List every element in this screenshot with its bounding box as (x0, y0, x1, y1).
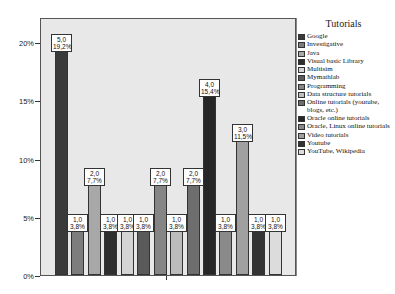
data-label: 1,03,8% (67, 214, 88, 232)
bar-online-tutorials-youtube-blogs-etc- (187, 185, 200, 275)
legend-swatch (298, 51, 305, 57)
legend-item: Java (298, 50, 395, 58)
bar-oracle-linux-online-tutorials (219, 231, 232, 275)
bar-youtube-wikipedia (269, 231, 282, 275)
data-label: 5,019,2% (51, 34, 72, 52)
legend-swatch (298, 67, 305, 73)
legend-item: YouTube, Wikipedia (298, 148, 395, 156)
legend-swatch (298, 84, 305, 90)
legend-divider (296, 18, 297, 276)
legend-swatch (298, 92, 305, 98)
legend-label: YouTube, Wikipedia (307, 148, 365, 156)
legend-label: Online tutorials (youtube, blogs, etc.) (307, 99, 395, 114)
legend-swatch (298, 59, 305, 65)
data-label: 1,03,8% (166, 214, 187, 232)
legend-swatch (298, 34, 305, 40)
legend-swatch (298, 75, 305, 81)
legend-title: Tutorials (292, 18, 395, 29)
data-label: 2,07,7% (84, 168, 105, 186)
y-tick-mark (35, 101, 40, 102)
data-label: 2,07,7% (150, 168, 171, 186)
legend-swatch (298, 116, 305, 122)
legend-swatch (298, 141, 305, 147)
y-tick-mark (35, 43, 40, 44)
legend-swatch (298, 124, 305, 130)
plot-area: 5,019,2%1,03,8%2,07,7%1,03,8%1,03,8%1,03… (40, 18, 296, 276)
bar-mymathlab (137, 231, 150, 275)
bar-google (55, 51, 68, 275)
legend-item: Mymathlab (298, 74, 395, 82)
y-tick-mark (35, 160, 40, 161)
legend-label: Mymathlab (307, 74, 339, 82)
legend-item: Investigative (298, 41, 395, 49)
data-label: 1,03,8% (265, 214, 286, 232)
legend-label: Java (307, 50, 319, 58)
legend-item: Online tutorials (youtube, blogs, etc.) (298, 99, 395, 114)
y-tick-label: 15% (0, 97, 34, 106)
bar-video-tutorials (236, 141, 249, 275)
x-axis-tick (166, 276, 167, 280)
legend-items: GoogleInvestigativeJavaVisual basic Libr… (298, 33, 395, 156)
y-tick-label: 5% (0, 213, 34, 222)
data-label: 1,03,8% (215, 214, 236, 232)
legend-item: Oracle, Linux online tutorials (298, 123, 395, 131)
bar-oracle-online-tutorials (203, 96, 216, 275)
y-tick-label: 20% (0, 39, 34, 48)
bar-visual-basic-library (104, 231, 117, 275)
y-tick-label: 10% (0, 155, 34, 164)
legend-swatch (298, 100, 305, 106)
y-tick-label: 0% (0, 272, 34, 281)
data-label: 2,07,7% (183, 168, 204, 186)
data-label: 3,011,5% (232, 124, 253, 142)
legend: Tutorials GoogleInvestigativeJavaVisual … (298, 18, 395, 157)
legend-swatch (298, 42, 305, 48)
bar-multisim (121, 231, 134, 275)
bar-investigative (71, 231, 84, 275)
legend-label: Oracle, Linux online tutorials (307, 123, 390, 131)
bar-youtube (252, 231, 265, 275)
y-tick-mark (35, 276, 40, 277)
legend-label: Investigative (307, 41, 343, 49)
data-label: 4,015,4% (199, 79, 220, 97)
legend-swatch (298, 133, 305, 139)
data-label: 1,03,8% (133, 214, 154, 232)
bar-data-structure-tutorials (170, 231, 183, 275)
legend-swatch (298, 149, 305, 155)
y-tick-mark (35, 218, 40, 219)
